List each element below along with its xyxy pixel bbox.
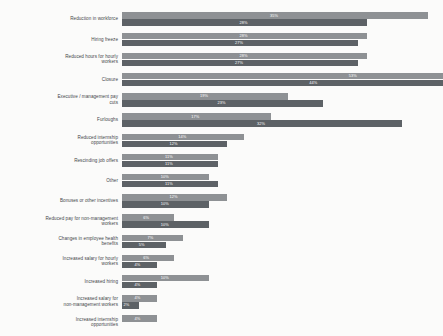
bar-group: 28%27% [122,29,443,49]
chart-row: Changes in employee health benefits7%5% [0,231,443,251]
category-label: Furloughs [0,117,122,122]
chart-row: Reduced pay for non-management workers6%… [0,211,443,231]
bar-value-label: 28% [239,54,247,58]
bar-value-label: 4% [134,317,140,321]
chart-row: Increased salary for non-management work… [0,292,443,312]
category-label: Increased salary for hourly workers [0,256,122,267]
bar-value-label: 2% [124,303,130,307]
chart-row: Increased hiring10%4% [0,272,443,292]
bar-group: 28%27% [122,49,443,69]
bar-value-label: 10% [161,202,169,206]
bar-value-label: 4% [134,283,140,287]
chart-row: Hiring freeze28%27% [0,29,443,49]
chart-row: Rescinding job offers11%11% [0,150,443,170]
bar-group: 14%12% [122,130,443,150]
bar-value-label: 28% [239,21,247,25]
bar-value-label: 11% [165,162,173,166]
bar-value-label: 10% [161,276,169,280]
chart-row: Reduced hours for hourly workers28%27% [0,49,443,69]
bar-value-label: 44% [309,81,317,85]
chart-row: Bonuses or other incentives12%10% [0,191,443,211]
bar-group: 10%4% [122,272,443,292]
bar-value-label: 4% [134,296,140,300]
bar-value-label: 53% [349,74,357,78]
category-label: Increased internship opportunities [0,317,122,328]
category-label: Other [0,178,122,183]
bar-value-label: 12% [169,142,177,146]
bar-group: 19%23% [122,90,443,110]
bar-value-label: 17% [191,115,199,119]
category-label: Executive / management pay cuts [0,94,122,105]
bar-value-label: 32% [257,122,265,126]
category-label: Bonuses or other incentives [0,198,122,203]
bar-group: 6%10% [122,211,443,231]
chart-row: Closure53%44% [0,70,443,90]
bar-group: 10%11% [122,171,443,191]
category-label: Closure [0,77,122,82]
bar-group: 17%32% [122,110,443,130]
category-label: Increased salary for non-management work… [0,296,122,307]
bar-value-label: 4% [134,263,140,267]
category-label: Hiring freeze [0,37,122,42]
category-label: Increased hiring [0,279,122,284]
category-label: Reduced hours for hourly workers [0,54,122,65]
bar-value-label: 6% [143,256,149,260]
bar-value-label: 6% [143,216,149,220]
chart-row: Reduced internship opportunities14%12% [0,130,443,150]
category-label: Reduction in workforce [0,16,122,21]
bar-group: 12%10% [122,191,443,211]
bar-value-label: 14% [178,135,186,139]
bar-group: 53%44% [122,70,443,90]
chart-row: Furloughs17%32% [0,110,443,130]
bar-chart: Reduction in workforce35%28%Hiring freez… [0,0,443,336]
bar-value-label: 27% [235,41,243,45]
category-label: Changes in employee health benefits [0,236,122,247]
bar-value-label: 12% [169,195,177,199]
bar-value-label: 19% [200,94,208,98]
bar-value-label: 35% [270,14,278,18]
category-label: Reduced pay for non-management workers [0,216,122,227]
bar-value-label: 11% [165,155,173,159]
chart-row: Other10%11% [0,171,443,191]
bar-group: 4%2% [122,292,443,312]
chart-row: Executive / management pay cuts19%23% [0,90,443,110]
bar-value-label: 10% [161,175,169,179]
bar-series-a [122,73,443,79]
chart-row: Reduction in workforce35%28% [0,9,443,29]
chart-row: Increased internship opportunities4% [0,312,443,332]
bar-value-label: 23% [218,101,226,105]
bar-value-label: 10% [161,223,169,227]
bar-value-label: 5% [139,243,145,247]
bar-group: 7%5% [122,231,443,251]
bar-series-b [122,80,443,86]
bar-group: 35%28% [122,9,443,29]
chart-row: Increased salary for hourly workers6%4% [0,251,443,271]
bar-value-label: 28% [239,34,247,38]
category-label: Rescinding job offers [0,158,122,163]
category-label: Reduced internship opportunities [0,135,122,146]
bar-value-label: 11% [165,182,173,186]
chart-plot-area: Reduction in workforce35%28%Hiring freez… [0,0,443,336]
bar-value-label: 7% [148,236,154,240]
bar-group: 11%11% [122,150,443,170]
bar-group: 6%4% [122,251,443,271]
bar-value-label: 27% [235,61,243,65]
bar-group: 4% [122,312,443,332]
